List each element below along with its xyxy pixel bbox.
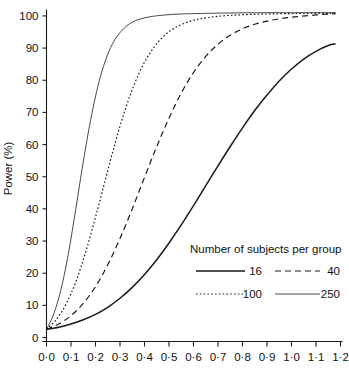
- x-tick-label: 0·2: [87, 351, 104, 363]
- legend-entry-100: 100: [196, 288, 262, 300]
- x-tick-label: 0·4: [136, 351, 153, 363]
- y-tick-label: 80: [26, 74, 39, 86]
- legend-label-250: 250: [321, 288, 340, 300]
- y-axis: 0102030405060708090100 Power (%): [2, 10, 47, 344]
- legend: Number of subjects per group 1640100250: [190, 243, 342, 300]
- legend-title: Number of subjects per group: [190, 243, 342, 255]
- x-tick-label: 0·8: [234, 351, 251, 363]
- x-tick-label: 0·9: [259, 351, 276, 363]
- y-tick-label: 20: [26, 267, 39, 279]
- y-axis-title: Power (%): [2, 141, 14, 195]
- y-tick-label: 0: [32, 332, 38, 344]
- y-tick-label: 40: [26, 203, 39, 215]
- x-tick-label: 1·1: [308, 351, 325, 363]
- power-curve-figure: 0102030405060708090100 Power (%) 0·00·10…: [0, 0, 349, 368]
- legend-label-40: 40: [327, 265, 340, 277]
- legend-label-100: 100: [243, 288, 262, 300]
- legend-entry-40: 40: [275, 265, 340, 277]
- x-axis-ticks: [47, 342, 341, 347]
- x-tick-label: 0·7: [210, 351, 227, 363]
- series-line-100: [47, 13, 336, 329]
- series-line-16: [47, 44, 336, 330]
- series-lines: [47, 13, 336, 330]
- y-tick-label: 50: [26, 171, 39, 183]
- y-tick-label: 60: [26, 139, 39, 151]
- x-tick-label: 0·0: [38, 351, 55, 363]
- x-tick-label: 0·5: [161, 351, 178, 363]
- x-axis: 0·00·10·20·30·40·50·60·70·80·91·01·11·2: [38, 342, 349, 363]
- x-tick-label: 0·1: [63, 351, 80, 363]
- y-tick-label: 70: [26, 106, 39, 118]
- legend-entry-16: 16: [196, 265, 262, 277]
- y-tick-label: 10: [26, 299, 39, 311]
- chart-canvas: 0102030405060708090100 Power (%) 0·00·10…: [0, 0, 349, 368]
- x-axis-tick-labels: 0·00·10·20·30·40·50·60·70·80·91·01·11·2: [38, 351, 349, 363]
- y-tick-label: 90: [26, 42, 39, 54]
- y-axis-ticks: [43, 16, 47, 338]
- x-tick-label: 1·2: [332, 351, 349, 363]
- legend-entries: 1640100250: [196, 265, 340, 300]
- series-line-250: [47, 13, 336, 330]
- x-tick-label: 0·6: [185, 351, 202, 363]
- legend-entry-250: 250: [275, 288, 340, 300]
- y-axis-tick-labels: 0102030405060708090100: [19, 10, 38, 344]
- y-tick-label: 30: [26, 235, 39, 247]
- x-tick-label: 1·0: [283, 351, 300, 363]
- legend-label-16: 16: [249, 265, 262, 277]
- series-line-40: [47, 14, 336, 330]
- y-tick-label: 100: [19, 10, 38, 22]
- x-tick-label: 0·3: [112, 351, 129, 363]
